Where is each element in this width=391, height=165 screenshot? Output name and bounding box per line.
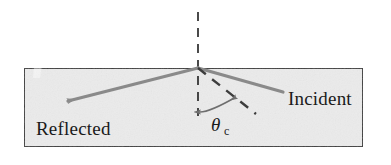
reflected-ray-label: Reflected xyxy=(36,118,111,139)
critical-angle-symbol: θ xyxy=(211,114,220,135)
critical-angle-subscript: c xyxy=(224,124,229,138)
incident-ray-label: Incident xyxy=(288,88,352,109)
total-internal-reflection-diagram: θ c Incident Reflected xyxy=(0,0,391,165)
figure-container: θ c Incident Reflected xyxy=(0,0,391,165)
